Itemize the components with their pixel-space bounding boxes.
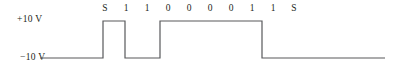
waveform-trace <box>0 0 395 78</box>
waveform-figure: +10 V −10 V S11000011S <box>0 0 395 78</box>
signal-polyline <box>40 21 385 58</box>
